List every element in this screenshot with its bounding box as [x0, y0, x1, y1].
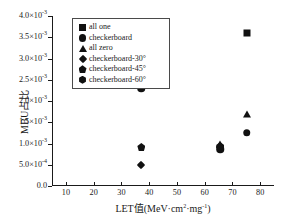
legend-marker [76, 56, 89, 62]
data-point [137, 143, 145, 151]
data-point [243, 30, 250, 37]
x-tick [177, 182, 178, 186]
legend-item: all zero [76, 43, 165, 54]
y-tick [48, 165, 52, 166]
data-point [243, 110, 251, 117]
diamond-marker-icon [137, 161, 145, 169]
x-tick [232, 182, 233, 186]
scatter-chart-figure: MBU占比 LET值(MeV·cm2·mg-1) 0.05.0×10-41.0×… [0, 0, 296, 224]
y-tick-label: 2.0×10-3 [19, 97, 47, 105]
x-tick-label: 60 [201, 189, 209, 197]
pentagon-marker-icon [79, 65, 87, 73]
y-tick-label: 3.0×10-3 [19, 54, 47, 62]
x-tick-label: 10 [62, 189, 70, 197]
y-tick-label: 3.5×10-3 [19, 33, 47, 41]
legend-marker [76, 65, 89, 73]
legend-label: checkerboard [89, 34, 132, 42]
x-tick-label: 30 [117, 189, 125, 197]
legend-marker [76, 34, 89, 42]
x-tick [94, 182, 95, 186]
circle-marker-icon [79, 34, 87, 42]
y-tick-label: 2.5×10-3 [19, 76, 47, 84]
y-tick [48, 80, 52, 81]
legend-label: all zero [89, 44, 113, 52]
y-tick-label: 1.5×10-3 [19, 118, 47, 126]
y-tick [48, 186, 52, 187]
x-tick-label: 80 [256, 189, 264, 197]
x-tick [66, 182, 67, 186]
data-point [138, 162, 144, 168]
y-tick [48, 144, 52, 145]
legend-label: checkerboard-30° [89, 55, 146, 63]
legend-item: checkerboard-60° [76, 75, 165, 86]
y-tick [48, 101, 52, 102]
legend-item: checkerboard [76, 33, 165, 44]
legend-item: checkerboard-30° [76, 54, 165, 65]
legend-marker [76, 24, 89, 31]
triangle-marker-icon [79, 45, 87, 52]
circle-marker-icon [243, 129, 251, 137]
x-axis-title: LET值(MeV·cm2·mg-1) [52, 200, 274, 215]
legend-marker [76, 76, 89, 84]
x-tick-label: 20 [90, 189, 98, 197]
legend-item: all one [76, 22, 165, 33]
square-marker-icon [243, 30, 250, 37]
hexagon-marker-icon [79, 76, 87, 84]
legend-marker [76, 45, 89, 52]
x-tick [260, 182, 261, 186]
legend-item: checkerboard-45° [76, 64, 165, 75]
chart-legend: all onecheckerboardall zerocheckerboard-… [72, 18, 170, 89]
data-point [243, 129, 251, 137]
x-tick-label: 40 [145, 189, 153, 197]
y-tick [48, 122, 52, 123]
y-tick [48, 16, 52, 17]
legend-label: checkerboard-45° [89, 65, 146, 73]
legend-label: checkerboard-60° [89, 76, 146, 84]
x-tick [205, 182, 206, 186]
x-tick [149, 182, 150, 186]
hexagon-marker-icon [216, 144, 224, 152]
legend-label: all one [89, 23, 111, 31]
diamond-marker-icon [78, 55, 86, 63]
data-point [216, 144, 224, 152]
x-tick [121, 182, 122, 186]
y-tick-label: 4.0×10-3 [19, 12, 47, 20]
y-axis-line [52, 16, 53, 186]
pentagon-marker-icon [137, 143, 145, 151]
y-tick [48, 37, 52, 38]
x-axis-line [52, 185, 274, 186]
y-tick [48, 59, 52, 60]
y-tick-label: 5.0×10-4 [19, 161, 47, 169]
x-tick-label: 50 [173, 189, 181, 197]
x-tick-label: 70 [228, 189, 236, 197]
y-tick-label: 1.0×10-3 [19, 139, 47, 147]
triangle-marker-icon [243, 110, 251, 117]
y-tick-label: 0.0 [37, 182, 47, 190]
square-marker-icon [79, 24, 86, 31]
